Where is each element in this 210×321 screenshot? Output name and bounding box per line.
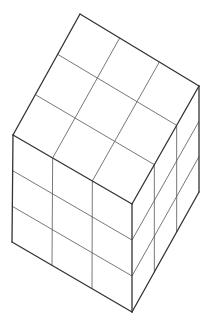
cube-edge — [13, 135, 132, 204]
left-face-grid-line — [12, 206, 132, 276]
cube-edge — [12, 242, 132, 312]
cube-edge — [80, 14, 199, 86]
cube-grid-lines — [12, 38, 199, 289]
left-face-grid-line — [52, 158, 53, 265]
cube-edge — [13, 14, 80, 135]
right-face-grid-line — [132, 121, 199, 240]
cube-edge — [132, 192, 199, 312]
top-face-grid-line — [53, 38, 120, 158]
left-face-grid-line — [13, 171, 132, 240]
right-face-grid-line — [132, 157, 199, 276]
cube-outline — [12, 14, 199, 312]
top-face-grid-line — [92, 62, 159, 181]
cube-edge — [132, 86, 199, 204]
cube-edge — [12, 135, 13, 242]
top-face-grid-line — [35, 95, 154, 165]
cube-drawing — [0, 0, 210, 321]
top-face-grid-line — [58, 54, 177, 125]
